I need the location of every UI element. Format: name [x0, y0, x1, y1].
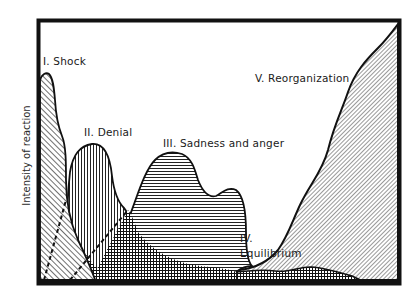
label-reorganization: V. Reorganization	[255, 72, 349, 84]
label-equilibrium-numeral: IV.	[240, 232, 253, 244]
label-shock: I. Shock	[43, 55, 86, 67]
grief-stages-diagram	[0, 0, 419, 301]
reorganization-area	[240, 24, 398, 282]
label-sadness-anger: III. Sadness and anger	[163, 137, 284, 149]
y-axis-label: Intensity of reaction	[21, 96, 32, 216]
label-denial: II. Denial	[84, 126, 132, 138]
baseline	[37, 279, 401, 285]
label-equilibrium: Equilibrium	[240, 247, 302, 259]
